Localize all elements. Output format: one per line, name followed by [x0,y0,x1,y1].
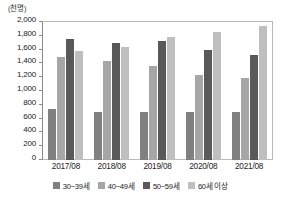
y-axis-tick-label: 1,000 [17,84,36,93]
bars-layer [43,22,272,160]
bar-group [135,22,181,160]
bar [94,112,102,160]
bar [167,37,175,161]
bar [232,112,240,160]
bar [66,39,74,160]
legend-item[interactable]: 40~49세 [98,180,134,191]
bar-chart: (천명) 02004006008001,0001,2001,4001,6001,… [0,0,281,200]
x-axis-tick-label: 2017/08 [52,162,80,171]
legend-swatch-icon [188,182,195,189]
x-axis: 2017/082018/082019/082020/082021/08 [43,162,272,176]
y-axis-tick-label: 1,800 [17,29,36,38]
y-axis-tick-label: 1,200 [17,70,36,79]
legend-swatch-icon [143,182,150,189]
legend-label: 50~59세 [153,180,180,191]
bar [112,43,120,160]
y-axis-tick-label: 200 [23,139,36,148]
y-axis-tick-label: 800 [23,98,36,107]
bar [213,32,221,160]
y-axis-tick-label: 0 [32,153,36,162]
bar [103,61,111,160]
x-axis-tick-label: 2018/08 [98,162,126,171]
bar-group [180,22,226,160]
bar [241,78,249,160]
bar-group [89,22,135,160]
legend-item[interactable]: 30~39세 [53,180,89,191]
bar [204,50,212,160]
bar [149,66,157,160]
legend-swatch-icon [53,182,60,189]
x-axis-tick-label: 2019/08 [143,162,171,171]
y-axis-tick-label: 1,400 [17,56,36,65]
x-axis-tick-label: 2020/08 [189,162,217,171]
bar-group [226,22,272,160]
bar-group [43,22,89,160]
bar [48,109,56,160]
y-axis: 02004006008001,0001,2001,4001,6001,8002,… [0,21,42,160]
bar [75,51,83,160]
legend-label: 60세 이상 [198,180,228,191]
y-axis-tick-label: 400 [23,125,36,134]
legend-item[interactable]: 50~59세 [143,180,179,191]
bar [57,57,65,160]
y-axis-tick-label: 1,600 [17,43,36,52]
legend-label: 30~39세 [63,180,90,191]
bar [140,112,148,160]
y-axis-tick-label: 2,000 [17,15,36,24]
chart-legend: 30~39세40~49세50~59세60세 이상 [0,180,281,191]
legend-label: 40~49세 [108,180,135,191]
legend-swatch-icon [98,182,105,189]
bar [195,75,203,160]
bar [158,41,166,160]
legend-item[interactable]: 60세 이상 [188,180,227,191]
x-axis-tick-label: 2021/08 [235,162,263,171]
bar [121,47,129,161]
bar [250,55,258,160]
bar [186,112,194,160]
bar [259,26,267,160]
y-axis-unit-label: (천명) [8,2,26,13]
y-axis-tick-label: 600 [23,112,36,121]
